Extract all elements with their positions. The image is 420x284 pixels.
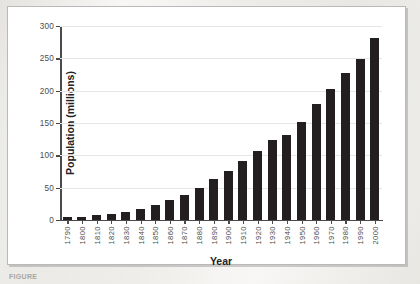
y-tick-mark [56,155,60,156]
x-tick-label: 1900 [224,226,233,245]
x-tick-label: 1850 [151,226,160,245]
y-tick-mark [56,188,60,189]
bar [326,89,335,220]
x-tick-mark [272,220,273,224]
y-tick-label: 150 [40,119,54,128]
y-tick-mark [56,91,60,92]
x-tick-label: 1920 [254,226,263,245]
bar [136,209,145,220]
bar [180,195,189,220]
x-tick-label: 1910 [239,226,248,245]
bar [151,205,160,220]
bar [312,104,321,220]
x-tick-mark [302,220,303,224]
bar [297,122,306,220]
y-tick-mark [56,220,60,221]
x-axis-line [60,220,383,221]
plot-area: 0501001502002503001790180018101820183018… [60,26,382,220]
x-tick-mark [126,220,127,224]
y-tick-mark [56,123,60,124]
x-tick-label: 1840 [137,226,146,245]
x-tick-mark [345,220,346,224]
y-tick-mark [56,26,60,27]
x-tick-label: 1990 [356,226,365,245]
bar [356,59,365,220]
x-tick-label: 1810 [93,226,102,245]
bar [209,179,218,220]
y-tick-label: 50 [44,183,54,192]
x-tick-label: 1830 [122,226,131,245]
y-tick-label: 250 [40,54,54,63]
x-tick-mark [199,220,200,224]
x-tick-mark [141,220,142,224]
x-tick-mark [67,220,68,224]
x-tick-mark [228,220,229,224]
gridline [60,58,382,59]
x-tick-mark [243,220,244,224]
x-tick-label: 1930 [268,226,277,245]
bar [268,140,277,220]
x-tick-label: 1860 [166,226,175,245]
y-tick-label: 200 [40,86,54,95]
x-tick-mark [258,220,259,224]
x-tick-label: 1890 [210,226,219,245]
bar [121,212,130,220]
x-tick-label: 1880 [195,226,204,245]
x-tick-mark [111,220,112,224]
bar [238,161,247,220]
x-tick-label: 1950 [298,226,307,245]
x-axis-title: Year [60,255,382,267]
y-tick-label: 300 [40,22,54,31]
x-tick-label: 1960 [312,226,321,245]
gridline [60,26,382,27]
figure-caption: FIGURE [9,273,37,280]
y-tick-label: 100 [40,151,54,160]
y-tick-label: 0 [49,216,54,225]
bar [224,171,233,220]
bar [370,38,379,220]
x-tick-mark [155,220,156,224]
x-tick-label: 1940 [283,226,292,245]
x-tick-mark [331,220,332,224]
x-tick-mark [360,220,361,224]
x-tick-mark [214,220,215,224]
x-tick-label: 1870 [180,226,189,245]
x-tick-label: 1800 [78,226,87,245]
x-tick-mark [316,220,317,224]
x-tick-label: 1790 [63,226,72,245]
bar [165,200,174,220]
bar [253,151,262,220]
x-tick-label: 1980 [341,226,350,245]
x-tick-mark [170,220,171,224]
figure-frame: Population (millions) 050100150200250300… [7,6,406,265]
x-tick-mark [82,220,83,224]
x-tick-label: 1970 [327,226,336,245]
y-tick-mark [56,58,60,59]
bar [341,73,350,220]
x-tick-mark [97,220,98,224]
x-tick-mark [375,220,376,224]
x-tick-mark [287,220,288,224]
x-tick-label: 2000 [371,226,380,245]
bar [282,135,291,220]
bar [195,188,204,220]
x-tick-mark [184,220,185,224]
x-tick-label: 1820 [107,226,116,245]
